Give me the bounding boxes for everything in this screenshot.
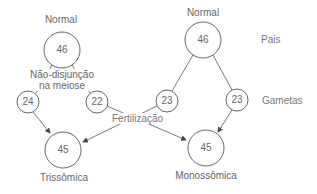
right-parent-label: Normal <box>187 7 219 18</box>
right-parent-value: 46 <box>197 35 208 45</box>
gamete-1-value: 24 <box>22 97 33 107</box>
fertilization-label: Fertilização <box>112 113 163 124</box>
offspring-2-label: Monossômica <box>175 170 237 181</box>
nondisjunction-line2: na meiose <box>30 80 94 91</box>
nondisjunction-line1: Não-disjunção <box>30 69 94 80</box>
row-label-gametes: Gametas <box>262 95 303 106</box>
gamete-2-value: 22 <box>91 97 102 107</box>
nondisjunction-label: Não-disjunção na meiose <box>30 69 94 91</box>
left-parent-value: 46 <box>56 45 67 55</box>
gamete-4-value: 23 <box>231 95 242 105</box>
row-label-parents: Pais <box>261 34 280 45</box>
offspring-1-label: Trissômica <box>40 172 88 183</box>
left-parent-label: Normal <box>45 14 77 25</box>
gamete-3-value: 23 <box>161 96 172 106</box>
offspring-2-value: 45 <box>200 143 211 153</box>
offspring-1-value: 45 <box>57 145 68 155</box>
